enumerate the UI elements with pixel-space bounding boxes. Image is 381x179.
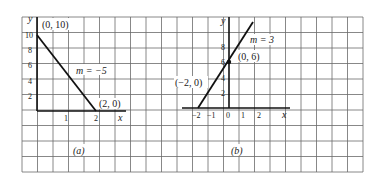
panel-a-x-label: x: [117, 112, 123, 123]
panel-b-point-label-1: (−2, 0): [175, 77, 202, 89]
panel-b-ytick: 2: [221, 89, 225, 98]
panel-b-ytick: 6: [221, 58, 225, 67]
panel-a-y-label: y: [27, 13, 33, 24]
panel-a-slope-label: m = −5: [76, 65, 107, 76]
panel-b-slope-label: m = 3: [250, 34, 274, 45]
panel-b-xtick: 0: [226, 111, 230, 120]
panel-a-ytick: 6: [28, 61, 32, 70]
panel-a-ytick: 4: [28, 77, 32, 86]
figure-linear-graphs: y x 10 8 6 4 2 1 2 (0, 10) (2, 0) m = −5…: [0, 0, 381, 179]
panel-b-xtick: 1: [241, 111, 245, 120]
panel-a-point-label-1: (0, 10): [42, 19, 69, 31]
panel-b-xtick: 2: [257, 111, 261, 120]
panel-b-y-label: y: [220, 15, 226, 26]
panel-b-ytick: 4: [221, 74, 225, 83]
panel-b-line: [198, 22, 253, 108]
panel-b-xtick: −2: [192, 111, 201, 120]
panel-b: y x 8 6 4 2 −2 −1 0 1 2 m = 3 (0, 6) (−2…: [174, 15, 290, 157]
panel-b-caption: (b): [231, 145, 243, 157]
panel-a-point-label-2: (2, 0): [99, 98, 121, 110]
panel-a-xtick: 1: [64, 114, 68, 123]
panel-a: y x 10 8 6 4 2 1 2 (0, 10) (2, 0) m = −5…: [25, 13, 126, 157]
panel-b-x-label: x: [281, 109, 287, 120]
panel-b-point-label-2: (0, 6): [238, 51, 260, 63]
panel-b-xtick: −1: [207, 111, 216, 120]
panel-a-ytick: 2: [28, 92, 32, 101]
panel-a-ytick: 8: [28, 46, 32, 55]
panel-b-point: [227, 60, 231, 64]
panel-a-ytick: 10: [25, 31, 33, 40]
panel-a-xtick: 2: [94, 114, 98, 123]
panel-a-caption: (a): [73, 145, 85, 157]
panel-b-ytick: 8: [221, 43, 225, 52]
